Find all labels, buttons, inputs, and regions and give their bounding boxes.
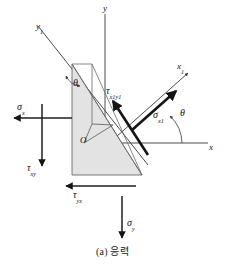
origin-label: O xyxy=(80,136,87,145)
sigma-x-label: σx xyxy=(17,102,25,112)
sigma-x-sub: x xyxy=(22,109,25,116)
x1-axis-line xyxy=(116,73,188,137)
tau-yx-sub: yx xyxy=(77,197,83,204)
sigma-x1-label: σx1 xyxy=(153,110,164,120)
stress-diagram-canvas xyxy=(0,0,225,272)
theta-axis-label: θ xyxy=(180,108,185,118)
figure-caption: (a) 응력 xyxy=(0,243,225,258)
x-axis-label: x xyxy=(209,143,213,152)
sigma-y-sub: y xyxy=(132,225,135,232)
axis-group xyxy=(38,14,208,165)
theta-axis-arc xyxy=(170,116,182,143)
tau-xy-sub: xy xyxy=(31,170,37,177)
wedge-element xyxy=(72,64,142,175)
stress-element-figure: y x y1 x1 O θ θ σx τxy τyx σy σx1 τx1y1 … xyxy=(0,0,225,272)
tau-yx-label: τyx xyxy=(73,190,82,200)
tau-x1y1-sub: x1y1 xyxy=(110,93,122,100)
x1-axis-label-sub: 1 xyxy=(181,68,184,75)
x1-axis-label: x1 xyxy=(177,62,184,71)
sigma-x1-sub: x1 xyxy=(158,117,164,124)
theta-wedge-label: θ xyxy=(73,78,78,88)
y-axis-label: y xyxy=(103,4,107,13)
tau-xy-label: τxy xyxy=(27,163,36,173)
y1-axis-label-sub: 1 xyxy=(40,28,43,35)
sigma-y-label: σy xyxy=(127,218,135,228)
y1-axis-label: y1 xyxy=(36,22,43,31)
tau-x1y1-label: τx1y1 xyxy=(106,86,121,96)
